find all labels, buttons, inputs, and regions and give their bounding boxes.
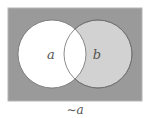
venn-diagram: a b ∼a xyxy=(0,0,150,118)
set-b-label: b xyxy=(93,47,101,62)
set-a-label: a xyxy=(47,47,55,62)
caption: ∼a xyxy=(66,103,83,117)
